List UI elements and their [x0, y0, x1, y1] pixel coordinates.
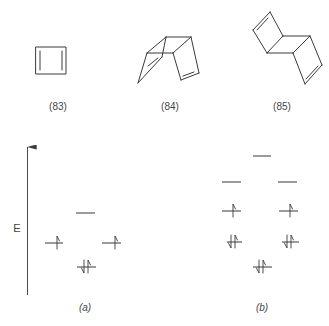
level-b-bottom — [253, 260, 272, 273]
structure-85-anti-dimer — [253, 12, 322, 84]
diagram-label-b: (b) — [256, 302, 268, 313]
level-a-right — [102, 236, 121, 249]
mo-diagram-b — [222, 156, 299, 273]
mo-diagram-a — [45, 213, 121, 273]
level-b-3-left — [222, 204, 241, 217]
structure-label-85: (85) — [273, 101, 291, 112]
structure-label-84: (84) — [161, 101, 179, 112]
structure-84-syn-dimer — [138, 37, 199, 83]
energy-axis-label: E — [13, 222, 20, 234]
structure-label-83: (83) — [49, 101, 67, 112]
level-a-left — [45, 236, 63, 249]
level-b-3-right — [279, 204, 298, 217]
level-a-bottom — [77, 260, 96, 273]
structure-83-cyclobutadiene — [36, 47, 66, 74]
diagram-label-a: (a) — [79, 302, 91, 313]
diagram-canvas — [0, 0, 329, 326]
level-b-4-left — [227, 235, 242, 248]
level-b-4-right — [282, 235, 299, 248]
